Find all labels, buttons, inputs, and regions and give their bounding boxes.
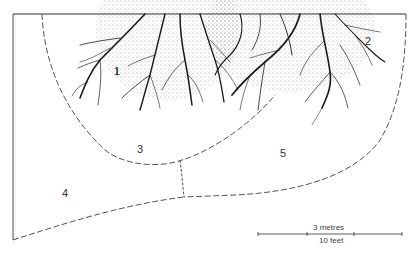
scale-metric-label: 3 metres	[313, 224, 344, 232]
zone-label-4: 4	[62, 188, 68, 199]
zone-label-5: 5	[280, 148, 286, 159]
zone-label-3: 3	[137, 144, 143, 155]
zone-label-2: 2	[365, 36, 371, 47]
scale-imperial-label: 10 feet	[319, 237, 343, 245]
boundary-zone4-bottom	[13, 197, 184, 240]
boundary-divider	[180, 160, 184, 197]
garden-diagram	[0, 0, 419, 258]
zone-label-1: 1	[114, 66, 120, 77]
